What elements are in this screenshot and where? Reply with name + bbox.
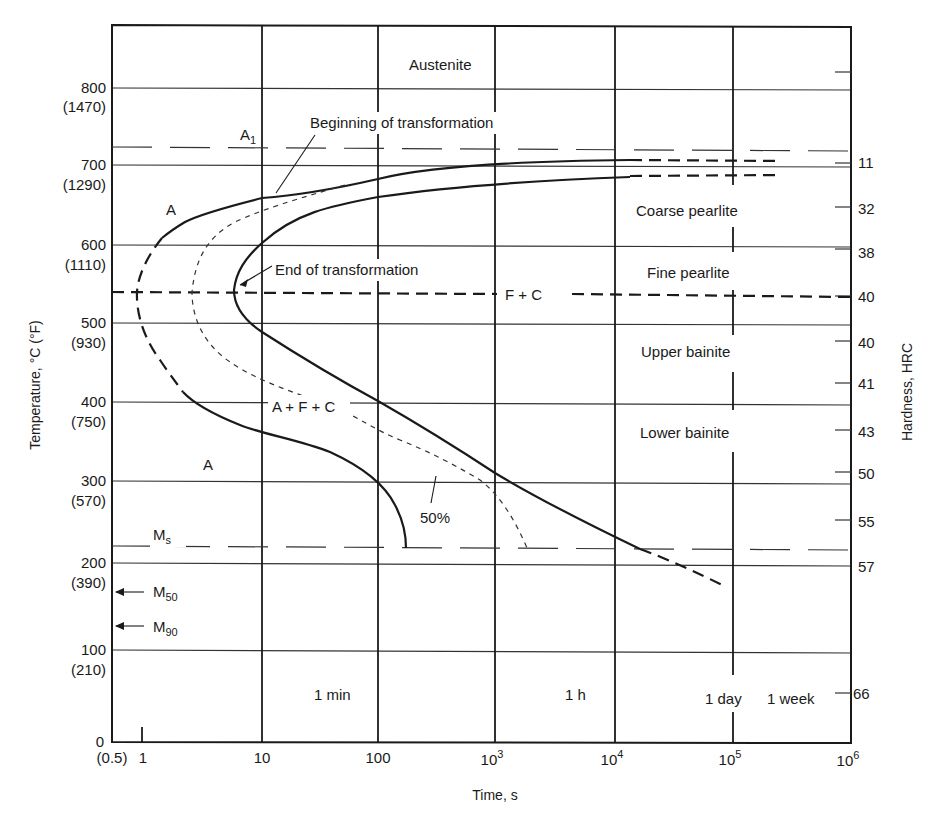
fifty-percent-curve — [192, 185, 527, 548]
svg-text:(570): (570) — [71, 492, 106, 509]
svg-text:500: 500 — [81, 314, 106, 331]
label-1-day: 1 day — [705, 690, 742, 707]
label-a1: A1 — [240, 126, 256, 146]
svg-text:11: 11 — [858, 154, 874, 171]
label-austenite: Austenite — [409, 56, 472, 73]
label-fine-pearlite: Fine pearlite — [647, 264, 730, 281]
svg-text:700: 700 — [81, 156, 106, 173]
svg-text:(1110): (1110) — [65, 256, 106, 273]
svg-text:1: 1 — [139, 749, 147, 766]
svg-text:(1470): (1470) — [63, 98, 106, 115]
left-axis-labels: 800 (1470) 700 (1290) 600 (1110) 500 (93… — [63, 79, 106, 750]
label-1-week: 1 week — [767, 690, 815, 707]
svg-text:600: 600 — [81, 236, 106, 253]
svg-text:(1290): (1290) — [63, 176, 106, 193]
svg-text:800: 800 — [81, 79, 106, 96]
a1-line — [112, 147, 851, 151]
svg-text:50: 50 — [858, 465, 875, 482]
label-a-plus-f-plus-c: A + F + C — [272, 398, 336, 415]
label-a-lower: A — [203, 456, 213, 473]
label-upper-bainite: Upper bainite — [641, 343, 730, 360]
y-axis-title-right: Hardness, HRC — [899, 343, 915, 441]
svg-text:400: 400 — [81, 393, 106, 410]
svg-text:105: 105 — [719, 748, 742, 768]
label-m50: M50 — [153, 583, 178, 603]
leader-lines — [115, 135, 436, 630]
label-a-upper: A — [166, 201, 176, 218]
svg-text:106: 106 — [837, 749, 860, 769]
svg-text:10: 10 — [254, 749, 271, 766]
svg-text:100: 100 — [81, 641, 106, 658]
label-coarse-pearlite: Coarse pearlite — [636, 202, 738, 219]
label-beginning-of-transformation: Beginning of transformation — [310, 114, 493, 131]
svg-text:32: 32 — [858, 200, 875, 217]
svg-text:66: 66 — [853, 685, 870, 702]
x-axis-title: Time, s — [472, 787, 517, 803]
hardness-ticks — [835, 72, 851, 693]
fc-boundary-line — [112, 292, 851, 297]
svg-text:57: 57 — [858, 558, 875, 575]
svg-text:(390): (390) — [71, 574, 106, 591]
horizontal-gridlines — [112, 88, 851, 653]
label-end-of-transformation: End of transformation — [275, 261, 418, 278]
x-axis-labels: (0.5) 1 10 100 103 104 105 106 — [97, 748, 860, 769]
ttt-diagram: 800 (1470) 700 (1290) 600 (1110) 500 (93… — [0, 0, 940, 824]
svg-text:(930): (930) — [71, 334, 106, 351]
svg-text:100: 100 — [365, 749, 390, 766]
svg-text:55: 55 — [858, 513, 875, 530]
label-1-min: 1 min — [314, 686, 351, 703]
svg-text:200: 200 — [81, 554, 106, 571]
label-f-plus-c: F + C — [505, 286, 542, 303]
svg-text:43: 43 — [858, 423, 875, 440]
svg-text:38: 38 — [858, 244, 875, 261]
end-of-transformation-curve — [234, 175, 780, 585]
right-axis-labels: 11 32 38 40 40 41 43 50 55 57 66 — [853, 154, 875, 702]
label-lower-bainite: Lower bainite — [640, 424, 729, 441]
svg-text:0: 0 — [96, 733, 104, 750]
svg-text:(750): (750) — [71, 413, 106, 430]
svg-text:300: 300 — [81, 472, 106, 489]
ms-line — [112, 546, 851, 550]
svg-text:(0.5): (0.5) — [97, 749, 128, 766]
label-m90: M90 — [153, 618, 178, 638]
svg-text:(210): (210) — [71, 661, 106, 678]
label-fifty-percent: 50% — [420, 509, 450, 526]
svg-text:41: 41 — [858, 375, 875, 392]
svg-text:40: 40 — [858, 288, 875, 305]
svg-text:103: 103 — [481, 748, 504, 768]
svg-text:40: 40 — [858, 334, 875, 351]
y-axis-title-left: Temperature, °C (°F) — [27, 320, 43, 449]
label-1-h: 1 h — [565, 686, 586, 703]
svg-text:104: 104 — [601, 748, 624, 768]
